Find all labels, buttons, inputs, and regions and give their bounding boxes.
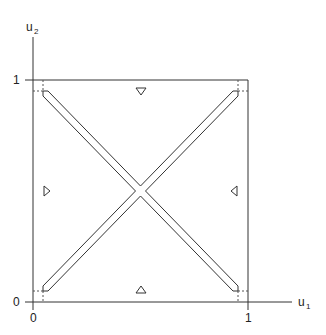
top-triangle-icon <box>136 88 146 95</box>
x-tick-1: 1 <box>245 311 252 325</box>
x-axis-label-sub: 1 <box>306 302 311 311</box>
y-tick-0: 0 <box>13 295 20 309</box>
bottom-triangle-icon <box>136 286 146 293</box>
y-tick-1: 1 <box>13 73 20 87</box>
x-axis-label: u <box>298 295 305 309</box>
y-axis-label-sub: 2 <box>34 27 39 36</box>
y-axis-label: u <box>26 20 33 34</box>
right-triangle-icon <box>231 186 237 196</box>
copula-support-diagram: u 2 u 1 0 1 0 1 <box>0 0 326 335</box>
triangle-markers <box>44 88 237 293</box>
x-tick-0: 0 <box>30 311 37 325</box>
main-diagonal-band <box>43 91 238 291</box>
dotted-guides <box>33 80 248 302</box>
left-triangle-icon <box>44 186 50 196</box>
bands <box>43 91 238 291</box>
anti-diagonal-band <box>43 91 238 291</box>
